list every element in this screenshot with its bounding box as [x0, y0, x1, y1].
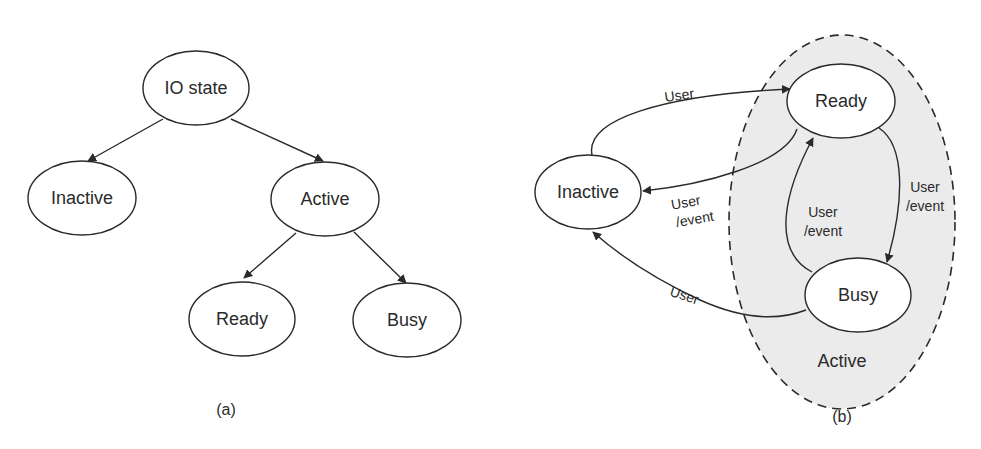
node-busy-label: Busy [387, 310, 427, 330]
node-inactive: Inactive [28, 161, 136, 235]
figure-a-tree: IO state Inactive Active Ready Busy (a) [28, 51, 461, 418]
node-inactive-b-label: Inactive [557, 182, 619, 202]
node-active: Active [271, 162, 379, 236]
figure-b-caption: (b) [832, 408, 852, 425]
node-inactive-label: Inactive [51, 188, 113, 208]
edge-iostate-active [231, 119, 323, 161]
node-active-label: Active [300, 189, 349, 209]
node-busy-b-label: Busy [838, 285, 878, 305]
svg-text:User: User [910, 179, 940, 195]
node-io-state: IO state [143, 51, 249, 125]
node-ready-b: Ready [787, 64, 895, 138]
node-ready-b-label: Ready [815, 91, 867, 111]
node-ready-label: Ready [216, 309, 268, 329]
svg-text:User: User [808, 204, 838, 220]
edge-iostate-inactive [88, 119, 163, 161]
active-group-label: Active [817, 351, 866, 371]
edge-label-ready-inactive: User /event [670, 190, 715, 230]
svg-text:/event: /event [804, 223, 842, 239]
node-busy: Busy [353, 283, 461, 357]
figure-a-caption: (a) [216, 401, 236, 418]
diagram-canvas: IO state Inactive Active Ready Busy (a) … [0, 0, 981, 449]
edge-label-busy-inactive: User [668, 283, 701, 307]
node-ready: Ready [189, 282, 295, 356]
node-busy-b: Busy [805, 258, 911, 332]
figure-b-state-machine: Active User User /event User User /event… [535, 35, 955, 425]
edge-active-ready [244, 233, 296, 278]
node-io-state-label: IO state [164, 78, 227, 98]
node-inactive-b: Inactive [535, 155, 641, 229]
edge-label-inactive-ready: User [664, 85, 696, 105]
svg-text:/event: /event [906, 198, 944, 214]
edge-active-busy [354, 232, 406, 283]
